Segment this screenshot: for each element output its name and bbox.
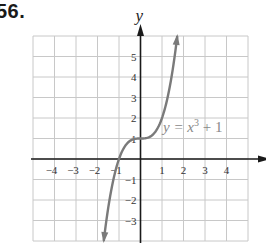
y-axis-label: y [134,6,144,25]
x-tick-label: 3 [202,164,208,176]
x-tick-label: 4 [224,164,230,176]
graph: xy−4−3−2−11234−3−2−112345y = x3 + 1 [0,0,266,249]
y-tick-label: 3 [131,92,137,104]
x-tick-label: 1 [159,164,165,176]
y-tick-label: −1 [125,174,137,186]
x-axis-arrow-icon [258,156,266,163]
x-tick-label: −2 [89,164,101,176]
y-tick-label: 2 [131,112,137,124]
x-tick-label: −4 [46,164,58,176]
y-tick-label: −3 [125,215,137,227]
y-tick-label: 4 [131,71,137,83]
y-tick-label: −2 [125,194,137,206]
equation-label: y = x3 + 1 [161,117,222,135]
y-tick-label: 5 [131,51,137,63]
y-axis-arrow-icon [137,24,144,36]
x-tick-label: −3 [67,164,79,176]
x-tick-label: 2 [181,164,187,176]
